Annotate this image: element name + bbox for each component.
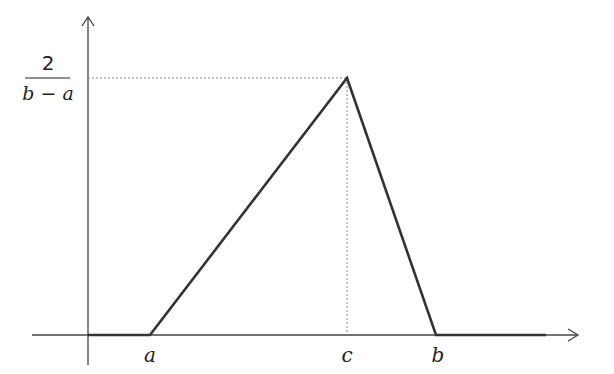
y-label-numerator: 2: [42, 51, 55, 75]
y-label-denominator: b − a: [22, 82, 74, 104]
x-label-a: a: [144, 343, 156, 367]
x-label-b: b: [432, 343, 445, 367]
x-label-c: c: [341, 343, 352, 367]
pdf-curve: [88, 78, 546, 335]
y-axis-label: 2 b − a: [22, 51, 74, 104]
y-axis: [82, 17, 94, 365]
triangular-pdf-diagram: 2 b − a a c b: [0, 0, 614, 374]
